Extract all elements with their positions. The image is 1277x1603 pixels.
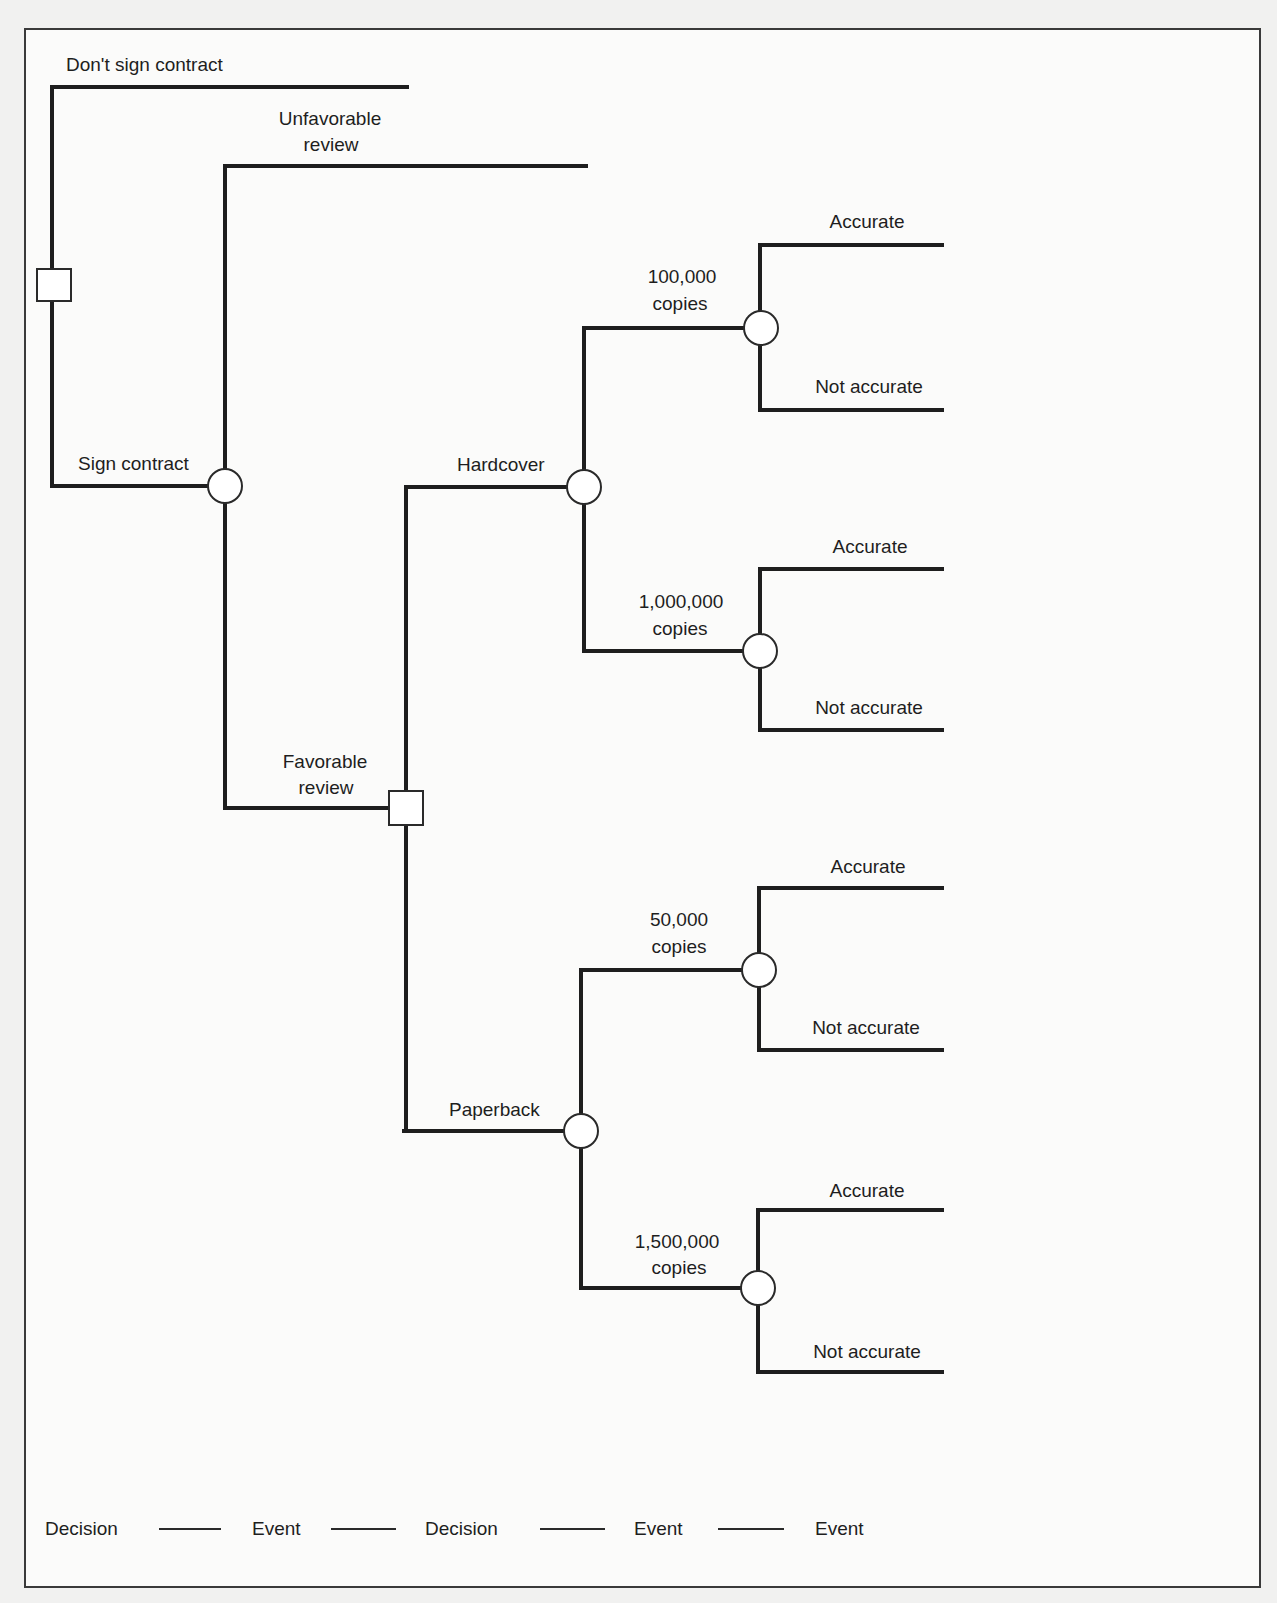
event-node-hc-100k-accuracy (744, 311, 778, 345)
event-node-pb-1500k-accuracy (741, 1271, 775, 1305)
label-paperback: Paperback (449, 1099, 540, 1120)
label-pb-50k-line2: copies (652, 936, 707, 957)
event-node-hardcover-sales (567, 470, 601, 504)
label-hc-1m-not-accurate: Not accurate (815, 697, 923, 718)
label-sign: Sign contract (78, 453, 190, 474)
label-hc-100k-accurate: Accurate (830, 211, 905, 232)
event-node-review (208, 469, 242, 503)
label-unfavorable-line2: review (304, 134, 359, 155)
label-pb-50k-line1: 50,000 (650, 909, 708, 930)
label-unfavorable-line1: Unfavorable (279, 108, 381, 129)
legend-stage-4: Event (634, 1518, 683, 1539)
label-dont-sign: Don't sign contract (66, 54, 223, 75)
label-hc-100k-line2: copies (653, 293, 708, 314)
decision-node-format (389, 791, 423, 825)
tree-edges (52, 87, 942, 1372)
label-pb-1500k-not-accurate: Not accurate (813, 1341, 921, 1362)
label-pb-50k-accurate: Accurate (831, 856, 906, 877)
label-hc-1m-line2: copies (653, 618, 708, 639)
label-favorable-line2: review (299, 777, 354, 798)
label-pb-1500k-line1: 1,500,000 (635, 1231, 720, 1252)
legend-stage-2: Event (252, 1518, 301, 1539)
label-favorable-line1: Favorable (283, 751, 368, 772)
label-pb-1500k-accurate: Accurate (830, 1180, 905, 1201)
legend-stage-1: Decision (45, 1518, 118, 1539)
label-pb-1500k-line2: copies (652, 1257, 707, 1278)
event-node-pb-50k-accuracy (742, 953, 776, 987)
event-node-paperback-sales (564, 1114, 598, 1148)
stage-legend: Decision Event Decision Event Event (45, 1518, 864, 1539)
label-hc-100k-not-accurate: Not accurate (815, 376, 923, 397)
label-hc-1m-accurate: Accurate (833, 536, 908, 557)
label-hc-100k-line1: 100,000 (648, 266, 717, 287)
legend-stage-5: Event (815, 1518, 864, 1539)
label-pb-50k-not-accurate: Not accurate (812, 1017, 920, 1038)
label-hardcover: Hardcover (457, 454, 545, 475)
event-node-hc-1m-accuracy (743, 634, 777, 668)
label-hc-1m-line1: 1,000,000 (639, 591, 724, 612)
decision-node-sign-contract (37, 269, 71, 301)
decision-tree-diagram: Don't sign contract Sign contract Unfavo… (0, 0, 1277, 1603)
legend-stage-3: Decision (425, 1518, 498, 1539)
tree-labels: Don't sign contract Sign contract Unfavo… (66, 54, 923, 1362)
